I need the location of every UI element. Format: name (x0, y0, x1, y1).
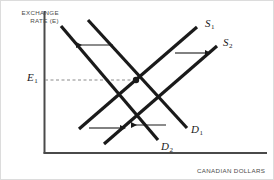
exchange-rate-diagram: EXCHANGE RATE (E) CANADIAN DOLLARS S1 S2… (0, 0, 274, 180)
equilibrium-tick-text: E (27, 71, 34, 83)
curve-label-s1: S1 (205, 18, 214, 31)
equilibrium-tick-label: E1 (27, 72, 37, 85)
equilibrium-tick-subscript: 1 (34, 77, 38, 85)
curve-label-s2-text: S (223, 36, 229, 48)
curve-label-d1: D1 (191, 124, 202, 137)
curve-label-d1-subscript: 1 (199, 129, 203, 137)
curve-label-d2: D2 (161, 141, 172, 154)
curve-label-d2-subscript: 2 (169, 146, 173, 154)
curve-label-s1-text: S (205, 17, 211, 29)
axis-lines (44, 11, 268, 154)
curve-label-s2-subscript: 2 (229, 42, 233, 50)
y-axis-label: EXCHANGE RATE (E) (7, 9, 59, 25)
curve-label-d1-text: D (191, 123, 199, 135)
curve-label-s2: S2 (223, 37, 232, 50)
curve-label-d2-text: D (161, 140, 169, 152)
x-axis-label: CANADIAN DOLLARS (197, 167, 271, 175)
equilibrium-point-marker (133, 77, 139, 83)
curve-label-s1-subscript: 1 (211, 23, 215, 31)
plot-area (1, 1, 274, 180)
